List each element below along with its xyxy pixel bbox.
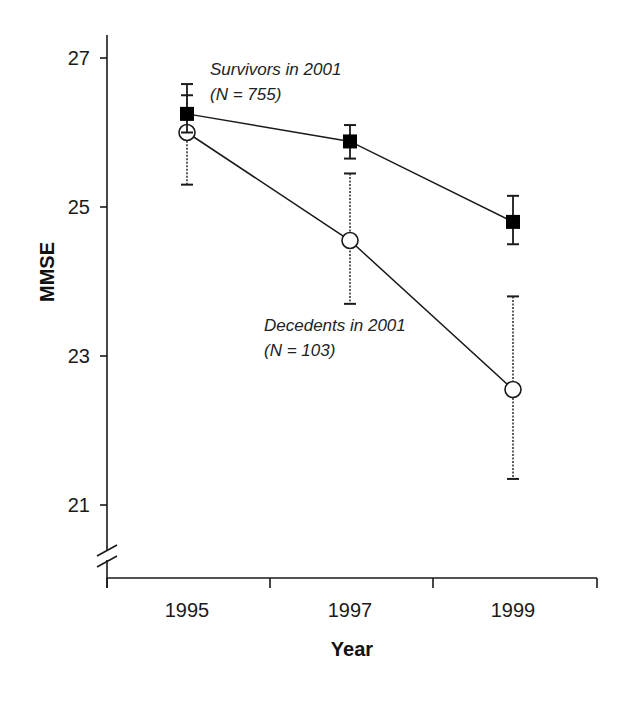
y-tick-label: 27 — [68, 47, 90, 69]
data-point-circle — [505, 382, 521, 398]
survivors-annotation-name: Survivors in 2001 — [210, 60, 341, 79]
survivors-annotation-n: (N = 755) — [210, 85, 281, 104]
y-tick-label: 23 — [68, 345, 90, 367]
decedents-annotation-n: (N = 103) — [264, 341, 335, 360]
y-tick-label: 25 — [68, 196, 90, 218]
y-tick-label: 21 — [68, 494, 90, 516]
mmse-chart: 21232527199519971999 MMSE Year Survivors… — [0, 0, 629, 701]
data-point-square — [343, 134, 357, 148]
x-axis-title: Year — [331, 638, 373, 660]
series — [179, 84, 521, 479]
decedents-annotation-name: Decedents in 2001 — [264, 316, 406, 335]
x-tick-label: 1999 — [491, 599, 536, 621]
x-tick-label: 1995 — [165, 599, 210, 621]
x-tick-label: 1997 — [328, 599, 373, 621]
data-point-square — [180, 107, 194, 121]
y-axis-title: MMSE — [36, 242, 58, 302]
data-point-square — [506, 215, 520, 229]
data-point-circle — [342, 233, 358, 249]
axes — [97, 35, 597, 588]
